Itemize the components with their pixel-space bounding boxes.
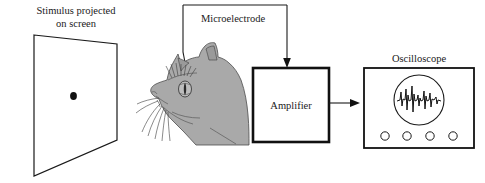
projection-screen <box>34 35 117 176</box>
oscilloscope-knob-3[interactable] <box>426 132 434 140</box>
stimulus-dot <box>70 92 77 100</box>
stimulus-caption-line2: on screen <box>56 18 97 29</box>
amplifier-label: Amplifier <box>270 100 312 111</box>
oscilloscope-knob-4[interactable] <box>449 132 457 140</box>
neurophysiology-recording-diagram: Stimulus projected on screen Microelectr… <box>0 0 485 183</box>
oscilloscope-knob-1[interactable] <box>381 132 389 140</box>
cat-head <box>136 43 249 145</box>
oscilloscope-label: Oscilloscope <box>392 53 447 64</box>
arrow-to-oscilloscope <box>350 99 360 107</box>
microelectrode-label: Microelectrode <box>201 13 265 24</box>
oscilloscope-knob-2[interactable] <box>403 132 411 140</box>
stimulus-caption-line1: Stimulus projected <box>36 5 116 16</box>
cat-eye <box>179 81 192 97</box>
arrow-to-amplifier <box>283 58 291 68</box>
